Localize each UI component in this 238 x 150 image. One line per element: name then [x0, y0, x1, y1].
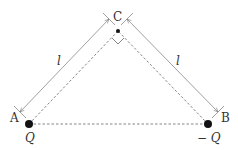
length-label-ac: l — [57, 54, 61, 68]
charge-label-a: Q — [25, 131, 35, 145]
dimension-line-bc — [127, 19, 218, 112]
label-a: A — [9, 111, 19, 125]
right-angle-marker — [112, 38, 124, 44]
label-b: B — [221, 111, 230, 125]
dashed-side-bc — [118, 31, 208, 124]
dashed-side-ac — [29, 31, 118, 124]
charge-triangle-diagram: C A B Q − Q l l — [0, 0, 238, 150]
charge-b — [204, 120, 212, 128]
dimension-line-ac — [20, 19, 109, 112]
charge-a — [25, 120, 33, 128]
length-label-bc: l — [176, 54, 180, 68]
label-c: C — [113, 10, 122, 24]
charge-label-b: − Q — [197, 131, 221, 145]
point-c — [116, 29, 120, 33]
